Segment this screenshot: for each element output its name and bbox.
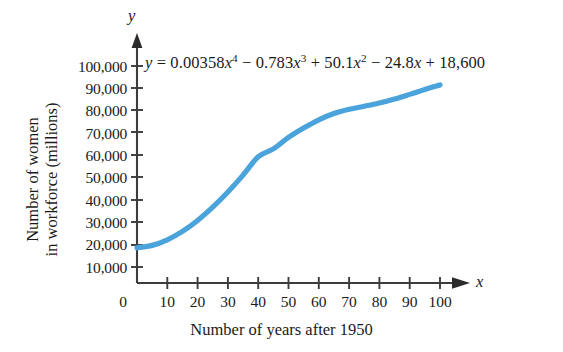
equation-annotation: y = 0.00358x4 − 0.783x3 + 50.1x2 − 24.8x… xyxy=(145,53,485,73)
y-axis-title: Number of women in workforce (millions) xyxy=(23,74,62,284)
equation-operator-4: + xyxy=(426,53,435,72)
y-tick-label: 60,000 xyxy=(0,148,127,164)
y-axis-variable-label: y xyxy=(128,8,135,25)
x-axis-title: Number of years after 1950 xyxy=(0,320,563,340)
equation-term1-exponent: 4 xyxy=(232,52,238,64)
y-tick-label: 30,000 xyxy=(0,215,127,231)
equation-lhs: y xyxy=(145,53,152,72)
equation-term1-coef: 0.00358 xyxy=(170,53,224,72)
y-tick-label: 90,000 xyxy=(0,81,127,97)
y-tick-label: 40,000 xyxy=(0,193,127,209)
equation-term2-exponent: 3 xyxy=(301,52,307,64)
x-tick-label: 100 xyxy=(420,294,460,310)
equation-term3-coef: 50.1 xyxy=(324,53,353,72)
data-curve xyxy=(137,85,440,248)
y-tick-label: 20,000 xyxy=(0,237,127,253)
equation-term4-coef: 24.8 xyxy=(385,53,414,72)
chart-figure: y = 0.00358x4 − 0.783x3 + 50.1x2 − 24.8x… xyxy=(0,0,563,352)
x-tick-label: 0 xyxy=(103,294,143,310)
y-tick-label: 100,000 xyxy=(0,59,127,75)
equation-term3-exponent: 2 xyxy=(361,52,367,64)
arrow-up-icon xyxy=(132,33,143,48)
y-tick-label: 10,000 xyxy=(0,260,127,276)
y-tick-label: 70,000 xyxy=(0,126,127,142)
y-axis-title-line-1: Number of women xyxy=(23,117,42,242)
y-tick-label: 50,000 xyxy=(0,170,127,186)
equation-operator-3: − xyxy=(371,53,380,72)
y-axis-title-line-2: in workforce (millions) xyxy=(42,74,61,284)
equation-constant: 18,600 xyxy=(439,53,485,72)
equation-operator-1: − xyxy=(242,53,251,72)
equation-term2-var: x xyxy=(293,53,300,72)
x-axis-variable-label: x xyxy=(476,274,483,291)
equation-term1-var: x xyxy=(225,53,232,72)
equation-operator-2: + xyxy=(311,53,320,72)
equation-term4-var: x xyxy=(414,53,421,72)
equation-term3-var: x xyxy=(354,53,361,72)
y-tick-label: 80,000 xyxy=(0,103,127,119)
equation-equals: = xyxy=(157,53,166,72)
equation-term2-coef: 0.783 xyxy=(256,53,294,72)
arrow-right-icon xyxy=(452,277,470,289)
